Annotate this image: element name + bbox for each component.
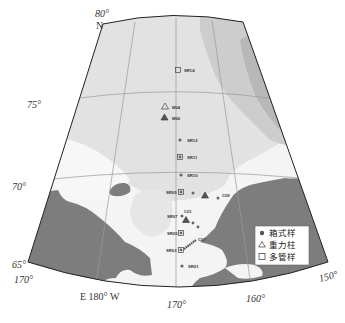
north-label: N <box>96 20 103 31</box>
station-map: 80° N 75° 70° 65° 170° E 180° W 170° 160… <box>0 0 345 323</box>
legend: 箱式样 重力柱 多管样 <box>255 226 309 265</box>
map-body <box>0 0 345 323</box>
station-sr12-label: SR12 <box>187 138 198 143</box>
station-sr07-label: SR07 <box>167 214 178 219</box>
station-sr11-label: SR11 <box>187 155 198 160</box>
station-sr03-dot <box>180 249 183 252</box>
station-sr03-label: SR03 <box>166 248 177 253</box>
station-sr10-label: SR10 <box>187 173 198 178</box>
legend-box-sample-label: 箱式样 <box>269 228 296 238</box>
station-sr11-dot <box>179 156 182 159</box>
legend-gravity-core-label: 重力柱 <box>269 240 296 250</box>
station-extra-dot-3[interactable] <box>197 226 200 229</box>
box-sample-icon <box>260 231 264 235</box>
station-sr05-label: SR05 <box>167 231 178 236</box>
station-c09-marker[interactable] <box>217 197 220 200</box>
station-extra-dot-1[interactable] <box>192 192 195 195</box>
lon-150W-label: 150° <box>318 268 339 284</box>
lat-75-label: 75° <box>27 99 41 110</box>
lon-160W-label: 160° <box>246 293 265 304</box>
station-sr10-marker[interactable] <box>179 173 182 176</box>
legend-multicore-label: 多管样 <box>269 252 296 262</box>
station-sr14-label: SR14 <box>184 68 195 73</box>
station-sr07-marker[interactable] <box>181 215 184 218</box>
lat-70-label: 70° <box>12 181 26 192</box>
lat-80-label: 80° <box>95 8 109 19</box>
station-sr12-marker[interactable] <box>178 138 181 141</box>
lon-170W-label: 170° <box>167 299 186 310</box>
lat-65-label: 65° <box>12 259 26 270</box>
station-m04-label: M04 <box>172 105 181 110</box>
station-sr09-label: SR09 <box>166 190 177 195</box>
lon-180-label: E 180° W <box>80 291 120 302</box>
station-c07-label: C07 <box>198 237 206 242</box>
bering-gap <box>105 278 122 292</box>
station-sr09-dot <box>180 191 183 194</box>
station-sr05-dot <box>180 232 183 235</box>
station-c01-label: C01 <box>184 209 192 214</box>
station-extra-dot-2[interactable] <box>192 222 195 225</box>
station-c09-label: C09 <box>222 193 230 198</box>
station-sr01-marker[interactable] <box>180 264 183 267</box>
station-sr01-label: SR01 <box>188 264 199 269</box>
station-m06-label: M06 <box>172 116 181 121</box>
lon-170E-label: 170° <box>14 274 33 285</box>
